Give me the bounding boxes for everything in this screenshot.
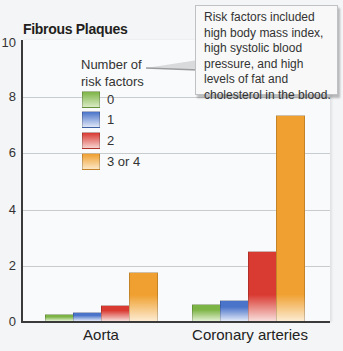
ytick-8: 8 bbox=[0, 89, 16, 104]
legend-item-2: 2 bbox=[82, 131, 114, 149]
ytick-6: 6 bbox=[0, 145, 16, 160]
xlabel-coronary-arteries: Coronary arteries bbox=[180, 326, 320, 343]
legend-title-line2: risk factors bbox=[81, 73, 144, 90]
legend-label: 1 bbox=[107, 112, 114, 127]
bar-aorta-2 bbox=[101, 305, 130, 322]
chart-title: Fibrous Plaques bbox=[23, 21, 127, 37]
legend-title-line1: Number of bbox=[81, 56, 144, 73]
legend-swatch-blue bbox=[82, 111, 100, 128]
bar-coronary-arteries-2 bbox=[248, 251, 277, 322]
bar-coronary-arteries-1 bbox=[220, 300, 249, 322]
ytick-10: 10 bbox=[0, 35, 16, 50]
legend-item-1: 1 bbox=[82, 110, 114, 128]
legend-item-0: 0 bbox=[82, 90, 114, 108]
y-axis bbox=[21, 40, 23, 323]
legend-swatch-orange bbox=[82, 153, 100, 170]
legend-label: 3 or 4 bbox=[107, 154, 140, 169]
ytick-4: 4 bbox=[0, 202, 16, 217]
legend-title: Number of risk factors bbox=[81, 56, 144, 90]
bar-coronary-arteries-0 bbox=[192, 304, 221, 322]
legend-label: 2 bbox=[107, 133, 114, 148]
annotation-callout: Risk factors included high body mass ind… bbox=[195, 5, 338, 95]
xlabel-aorta: Aorta bbox=[45, 326, 157, 343]
legend-item-3: 3 or 4 bbox=[82, 152, 140, 170]
callout-pointer bbox=[146, 60, 198, 72]
bar-coronary-arteries-3-or-4 bbox=[276, 115, 305, 322]
legend-swatch-green bbox=[82, 91, 100, 108]
legend-swatch-red bbox=[82, 132, 100, 149]
ytick-2: 2 bbox=[0, 258, 16, 273]
x-axis bbox=[21, 321, 330, 323]
ytick-0: 0 bbox=[0, 314, 16, 329]
bar-aorta-3-or-4 bbox=[129, 272, 158, 322]
legend-label: 0 bbox=[107, 92, 114, 107]
